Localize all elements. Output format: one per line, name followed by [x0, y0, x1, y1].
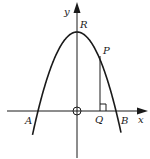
- point-r-label: R: [79, 19, 88, 30]
- y-axis-arrow-icon: [74, 2, 81, 13]
- point-a-label: A: [24, 115, 32, 126]
- right-angle-marker: [100, 104, 106, 111]
- x-axis-label: x: [138, 114, 144, 125]
- point-q-label: Q: [95, 114, 103, 125]
- parabola-diagram: y x R P Q A B: [0, 0, 150, 159]
- point-b-label: B: [120, 115, 128, 126]
- point-p-label: P: [102, 45, 110, 56]
- y-axis-label: y: [63, 6, 70, 17]
